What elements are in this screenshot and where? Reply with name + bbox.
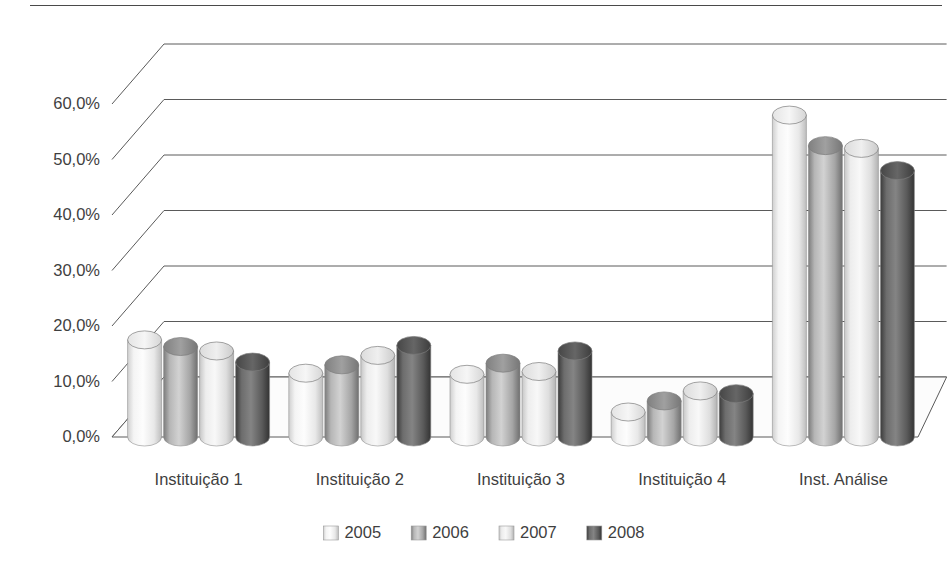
bar-2008-3 [558, 342, 592, 446]
bar-body [164, 347, 198, 446]
bar-top-cap [361, 346, 395, 364]
bar-2007-2 [361, 346, 395, 446]
bar-body [325, 365, 359, 446]
y-tick-label: 0,0% [62, 427, 100, 445]
bar-2005-2 [289, 364, 323, 446]
legend-label-2005[interactable]: 2005 [344, 523, 381, 541]
bar-top-cap [844, 139, 878, 157]
y-tick-label: 50,0% [53, 150, 100, 168]
bar-top-cap [200, 342, 234, 360]
bar-2008-2 [397, 336, 431, 446]
bar-top-cap [719, 385, 753, 403]
bar-2007-3 [522, 363, 556, 446]
bar-body [361, 355, 395, 446]
bar-top-cap [683, 382, 717, 400]
bar-2008-4 [719, 385, 753, 446]
x-category-label: Inst. Análise [799, 470, 888, 488]
bar-top-cap [325, 356, 359, 374]
legend-label-2006[interactable]: 2006 [432, 523, 469, 541]
x-category-label: Instituição 3 [477, 470, 565, 488]
bar-body [880, 171, 914, 446]
bar-body [397, 345, 431, 446]
bar-2006-1 [164, 338, 198, 446]
bar-top-cap [558, 342, 592, 360]
chart-figure: 0,0%10,0%20,0%30,0%40,0%50,0%60,0% Insti… [0, 0, 948, 575]
legend-label-2007[interactable]: 2007 [520, 523, 557, 541]
bar-top-cap [450, 365, 484, 383]
bar-2008-5 [880, 162, 914, 446]
bar-2006-5 [808, 137, 842, 446]
bar-2005-4 [611, 403, 645, 446]
bar-top-cap [397, 336, 431, 354]
bar-top-cap [289, 364, 323, 382]
bar-2005-5 [772, 106, 806, 446]
y-tick-label: 10,0% [53, 372, 100, 390]
bar-2006-2 [325, 356, 359, 446]
x-axis-category-labels: Instituição 1Instituição 2Instituição 3I… [155, 470, 888, 488]
bar-body [289, 373, 323, 446]
bar-body [808, 146, 842, 446]
bar-body [200, 351, 234, 446]
bar-body [558, 351, 592, 446]
bar-body [772, 115, 806, 446]
bar-chart-3d: 0,0%10,0%20,0%30,0%40,0%50,0%60,0% Insti… [0, 0, 948, 575]
legend-swatch-2008[interactable] [587, 526, 602, 540]
legend-swatch-2007[interactable] [499, 526, 514, 540]
bar-top-cap [880, 162, 914, 180]
bar-top-cap [128, 331, 162, 349]
bar-2006-4 [647, 392, 681, 446]
bar-2006-3 [486, 354, 520, 446]
x-category-label: Instituição 4 [638, 470, 726, 488]
bar-2005-1 [128, 331, 162, 446]
bar-2007-4 [683, 382, 717, 446]
y-axis-tick-labels: 0,0%10,0%20,0%30,0%40,0%50,0%60,0% [53, 94, 100, 445]
legend-swatch-2006[interactable] [411, 526, 426, 540]
gridline-600 [112, 44, 947, 104]
bar-body [450, 374, 484, 446]
bar-body [236, 362, 270, 446]
bar-2007-5 [844, 139, 878, 446]
bar-top-cap [522, 363, 556, 381]
bar-body [128, 340, 162, 446]
x-category-label: Instituição 1 [155, 470, 243, 488]
bar-top-cap [647, 392, 681, 410]
bar-top-cap [772, 106, 806, 124]
bar-body [844, 148, 878, 446]
y-tick-label: 30,0% [53, 261, 100, 279]
legend-swatch-2005[interactable] [323, 526, 338, 540]
y-tick-label: 20,0% [53, 316, 100, 334]
y-tick-label: 40,0% [53, 205, 100, 223]
bar-2007-1 [200, 342, 234, 446]
bar-top-cap [164, 338, 198, 356]
bar-2005-3 [450, 365, 484, 446]
bar-2008-1 [236, 353, 270, 446]
bar-top-cap [611, 403, 645, 421]
bar-top-cap [236, 353, 270, 371]
x-category-label: Instituição 2 [316, 470, 404, 488]
chart-legend: 2005200620072008 [323, 523, 644, 541]
legend-label-2008[interactable]: 2008 [608, 523, 645, 541]
bar-body [486, 363, 520, 446]
bar-top-cap [486, 354, 520, 372]
y-tick-label: 60,0% [53, 94, 100, 112]
bar-top-cap [808, 137, 842, 155]
bar-body [522, 372, 556, 446]
